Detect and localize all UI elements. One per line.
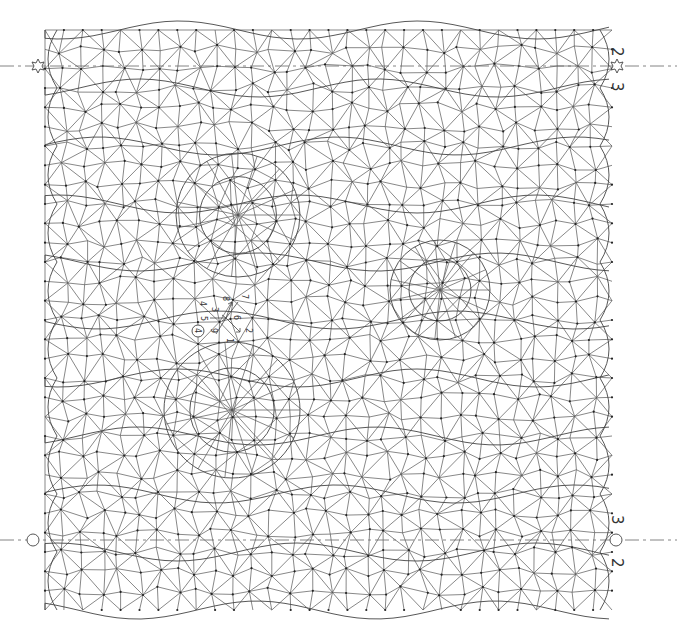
pin-dot <box>536 517 538 519</box>
pin-dot <box>463 130 465 132</box>
pin-dot <box>344 353 346 355</box>
pin-dot <box>425 457 427 459</box>
pin-dot <box>330 179 332 181</box>
pin-dot <box>348 126 350 128</box>
pin-dot <box>209 528 211 530</box>
pin-dot <box>540 530 542 532</box>
pin-dot <box>122 375 124 377</box>
pin-dot <box>443 52 445 54</box>
pin-dot <box>160 166 162 168</box>
pin-dot <box>176 411 178 413</box>
pin-dot <box>389 162 391 164</box>
pin-dot <box>362 304 364 306</box>
pin-dot <box>611 106 613 108</box>
pin-dot <box>179 225 181 227</box>
pin-dot <box>370 321 372 323</box>
pin-dot <box>44 87 46 89</box>
pin-dot <box>500 452 502 454</box>
pin-dot <box>345 414 347 416</box>
pin-dot <box>175 362 177 364</box>
pin-dot <box>611 532 613 534</box>
pin-dot <box>441 574 443 576</box>
pin-dot <box>80 68 82 70</box>
pin-dot <box>290 29 292 31</box>
pin-dot <box>493 166 495 168</box>
pin-dot <box>595 169 597 171</box>
pin-dot <box>212 492 214 494</box>
pin-dot <box>461 574 463 576</box>
pin-dot <box>250 567 252 569</box>
pin-dot <box>577 84 579 86</box>
pin-dot <box>216 44 218 46</box>
pin-dot <box>515 121 517 123</box>
pin-dot <box>176 469 178 471</box>
pin-dot <box>232 593 234 595</box>
pin-dot <box>267 535 269 537</box>
pin-dot <box>192 553 194 555</box>
pin-dot <box>44 551 46 553</box>
pin-dot <box>499 375 501 377</box>
pin-dot <box>423 378 425 380</box>
pin-dot <box>250 473 252 475</box>
pin-dot <box>232 575 234 577</box>
pin-dot <box>588 204 590 206</box>
pin-dot <box>123 455 125 457</box>
pin-dot <box>44 338 46 340</box>
order-label-7: 7 <box>240 294 249 299</box>
pin-dot <box>483 550 485 552</box>
pin-dot <box>98 220 100 222</box>
pin-dot <box>407 86 409 88</box>
pin-dot <box>516 29 518 31</box>
pin-dot <box>386 361 388 363</box>
pin-dot <box>116 219 118 221</box>
pin-dot <box>172 179 174 181</box>
pin-dot <box>554 29 556 31</box>
pin-dot <box>367 183 369 185</box>
pin-dot <box>63 588 65 590</box>
pin-dot <box>611 184 613 186</box>
pin-dot <box>193 260 195 262</box>
pin-dot <box>419 568 421 570</box>
pin-dot <box>406 492 408 494</box>
pin-dot <box>59 87 61 89</box>
pin-dot <box>310 49 312 51</box>
pin-dot <box>531 314 533 316</box>
pin-dot <box>44 300 46 302</box>
pin-dot <box>382 530 384 532</box>
pin-dot <box>237 148 239 150</box>
pin-dot <box>361 397 363 399</box>
pin-dot <box>198 433 200 435</box>
pin-dot <box>193 453 195 455</box>
pin-dot <box>274 71 276 73</box>
pin-dot <box>247 187 249 189</box>
pin-dot <box>285 478 287 480</box>
pin-dot <box>474 160 476 162</box>
pin-dot <box>276 489 278 491</box>
pin-dot <box>78 593 80 595</box>
pin-dot <box>597 237 599 239</box>
pin-dot <box>403 609 405 611</box>
pin-dot <box>272 355 274 357</box>
pin-dot <box>479 318 481 320</box>
pin-dot <box>439 528 441 530</box>
pin-dot <box>501 204 503 206</box>
pin-dot <box>478 280 480 282</box>
pin-dot <box>157 609 159 611</box>
pin-dot <box>570 529 572 531</box>
pin-dot <box>312 82 314 84</box>
pin-dot <box>417 239 419 241</box>
pin-dot <box>156 529 158 531</box>
pin-dot <box>557 188 559 190</box>
pin-dot <box>423 227 425 229</box>
pin-dot <box>60 256 62 258</box>
pin-dot <box>401 204 403 206</box>
pin-dot <box>135 455 137 457</box>
pin-dot <box>308 129 310 131</box>
pin-dot <box>478 125 480 127</box>
pin-dot <box>578 128 580 130</box>
pin-dot <box>101 609 103 611</box>
pin-dot <box>83 166 85 168</box>
pin-dot <box>501 185 503 187</box>
pin-dot <box>502 130 504 132</box>
pin-dot <box>230 204 232 206</box>
